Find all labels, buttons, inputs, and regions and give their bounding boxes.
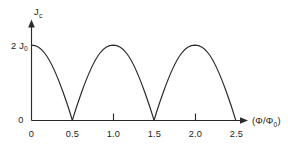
plot-canvas: 2 J0 0 0 0.5 1.0 1.5 2.0 2.5 Jc (Φ/Φ0) bbox=[0, 0, 288, 146]
x-tick-label-2.0: 2.0 bbox=[189, 129, 202, 139]
x-axis-label-close: ) bbox=[277, 115, 280, 126]
y-axis-arrowhead bbox=[28, 20, 35, 28]
x-tick-label-1.0: 1.0 bbox=[107, 129, 120, 139]
squid-critical-current-figure: 2 J0 0 0 0.5 1.0 1.5 2.0 2.5 Jc (Φ/Φ0) bbox=[0, 0, 288, 146]
y-axis-label-sub: c bbox=[39, 12, 43, 19]
x-axis-arrowhead bbox=[240, 117, 248, 123]
x-tick-label-0: 0 bbox=[29, 129, 34, 139]
y-axis-label: Jc bbox=[34, 6, 43, 19]
y-level-label-2j0: 2 J0 bbox=[11, 40, 28, 53]
x-axis-label-phi: Φ bbox=[255, 115, 263, 126]
y-level-sub: 0 bbox=[24, 45, 28, 52]
y-level-prefix: 2 bbox=[11, 40, 19, 51]
x-tick-label-1.5: 1.5 bbox=[148, 129, 161, 139]
origin-label: 0 bbox=[18, 115, 23, 125]
x-axis-label-phi2: Φ bbox=[266, 115, 274, 126]
x-tick-label-2.5: 2.5 bbox=[230, 129, 243, 139]
x-tick-label-0.5: 0.5 bbox=[66, 129, 79, 139]
critical-current-curve bbox=[32, 45, 236, 120]
x-axis-label: (Φ/Φ0) bbox=[252, 115, 281, 128]
